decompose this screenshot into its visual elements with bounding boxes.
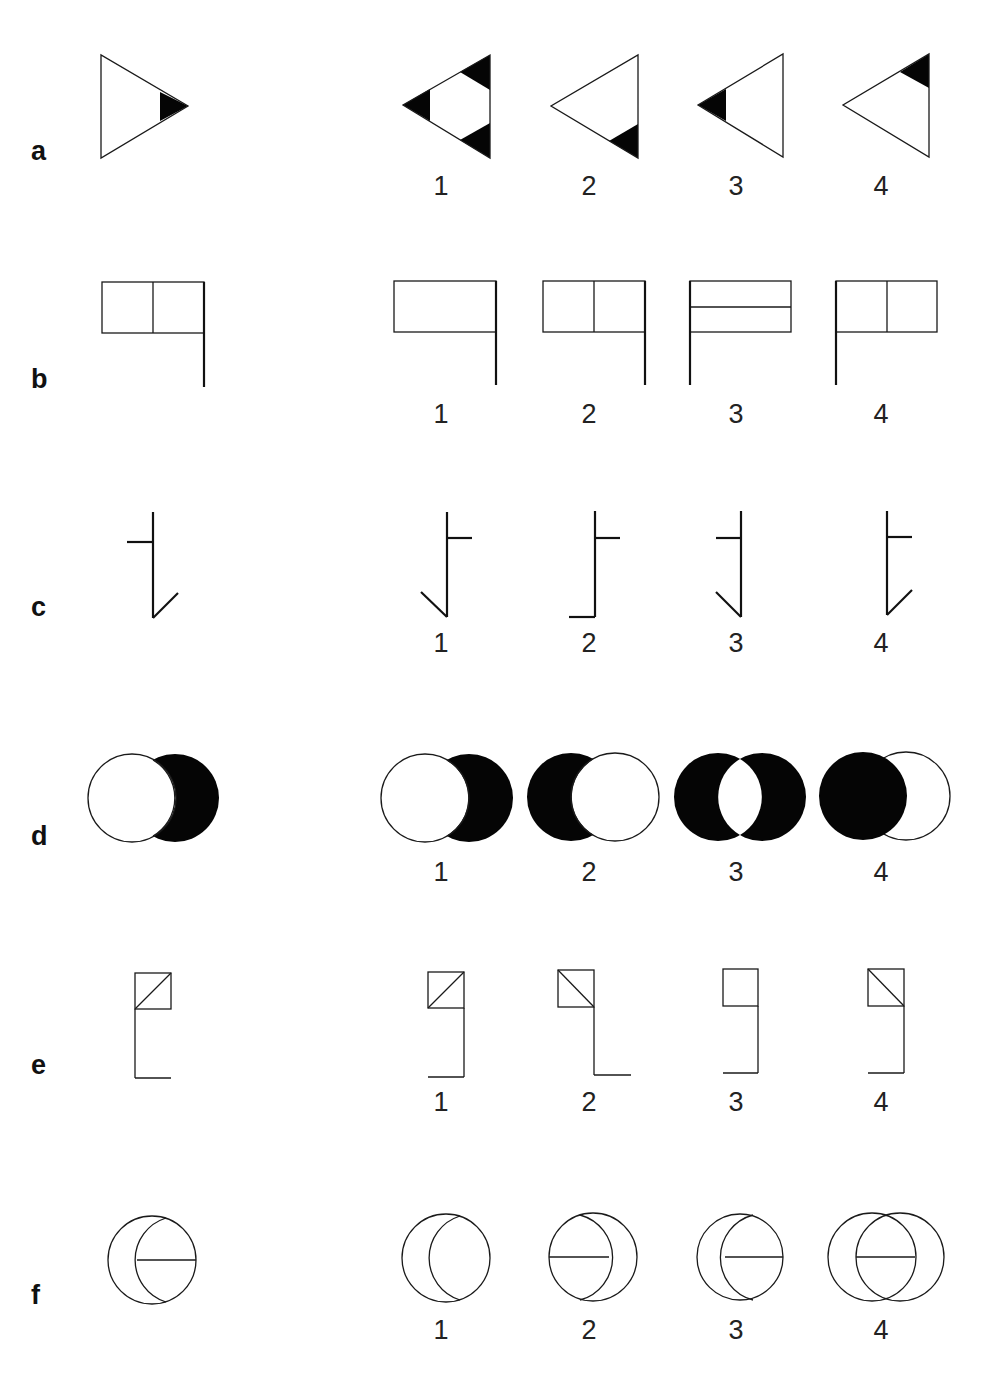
row-e-reference-square-bracket-figure [135, 973, 171, 1078]
row-d-option-4-figure[interactable] [819, 752, 950, 840]
row-d-option-2-figure[interactable] [527, 753, 659, 841]
row-e-option-3-number: 3 [728, 1089, 743, 1116]
row-label-f: f [31, 1282, 40, 1309]
row-label-c: c [31, 594, 46, 621]
row-e-option-4-figure[interactable] [868, 969, 904, 1073]
row-d-option-1-number: 1 [433, 859, 448, 886]
row-c-option-4-number: 4 [873, 630, 888, 657]
row-label-a: a [31, 138, 46, 165]
row-b-option-4-number: 4 [873, 401, 888, 428]
row-e-option-4-number: 4 [873, 1089, 888, 1116]
row-a-option-1-number: 1 [433, 173, 448, 200]
row-c-option-1-number: 1 [433, 630, 448, 657]
row-d-option-1-figure[interactable] [381, 754, 513, 842]
row-c-option-3-figure[interactable] [716, 511, 741, 617]
row-a-option-1-figure[interactable] [403, 55, 490, 158]
row-f-option-2-figure[interactable] [549, 1213, 637, 1301]
row-a-option-4-number: 4 [873, 173, 888, 200]
figure-canvas [0, 0, 981, 1373]
row-d-option-3-number: 3 [728, 859, 743, 886]
row-e-option-2-figure[interactable] [558, 970, 631, 1075]
row-c-option-2-number: 2 [581, 630, 596, 657]
row-a-reference-triangle-figure [101, 55, 188, 158]
row-f-reference-circle-arc-figure [108, 1216, 196, 1304]
row-c-reference-stroke-figure [127, 512, 178, 618]
row-c-option-2-figure[interactable] [569, 511, 620, 617]
row-d-option-4-number: 4 [873, 859, 888, 886]
row-f-option-3-figure[interactable] [697, 1214, 783, 1300]
row-e-option-1-figure[interactable] [428, 972, 464, 1077]
row-label-b: b [31, 366, 48, 393]
row-e-option-1-number: 1 [433, 1089, 448, 1116]
row-b-option-1-figure[interactable] [394, 281, 496, 385]
row-f-option-2-number: 2 [581, 1317, 596, 1344]
row-a-option-2-figure[interactable] [551, 55, 638, 158]
row-f-option-1-number: 1 [433, 1317, 448, 1344]
row-c-option-3-number: 3 [728, 630, 743, 657]
row-f-option-1-figure[interactable] [402, 1214, 490, 1302]
row-d-option-2-number: 2 [581, 859, 596, 886]
row-b-option-3-number: 3 [728, 401, 743, 428]
row-b-option-2-number: 2 [581, 401, 596, 428]
row-d-option-3-figure[interactable] [674, 753, 806, 841]
row-f-option-4-number: 4 [873, 1317, 888, 1344]
row-e-option-3-figure[interactable] [723, 969, 758, 1073]
row-b-reference-flag-figure [102, 282, 204, 387]
row-label-e: e [31, 1052, 46, 1079]
row-c-option-1-figure[interactable] [421, 512, 472, 617]
row-a-option-3-number: 3 [728, 173, 743, 200]
row-b-option-4-figure[interactable] [836, 281, 937, 385]
row-f-option-4-figure[interactable] [828, 1213, 944, 1301]
row-a-option-4-figure[interactable] [843, 54, 929, 157]
row-b-option-1-number: 1 [433, 401, 448, 428]
row-f-option-3-number: 3 [728, 1317, 743, 1344]
row-b-option-2-figure[interactable] [543, 281, 645, 385]
row-d-reference-circles-figure [88, 754, 219, 842]
row-c-option-4-figure[interactable] [887, 511, 912, 615]
row-label-d: d [31, 823, 48, 850]
row-a-option-2-number: 2 [581, 173, 596, 200]
row-a-option-3-figure[interactable] [698, 54, 783, 157]
row-e-option-2-number: 2 [581, 1089, 596, 1116]
row-b-option-3-figure[interactable] [690, 281, 791, 385]
